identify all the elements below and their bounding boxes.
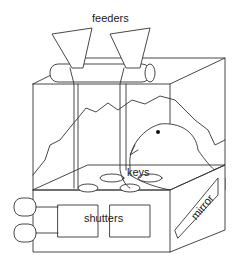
operant-chamber-diagram: feeders keys shutters mirror bbox=[0, 0, 239, 261]
solenoid-top bbox=[14, 198, 36, 216]
label-feeders: feeders bbox=[92, 12, 129, 24]
label-shutters: shutters bbox=[84, 212, 124, 224]
solenoid-bottom bbox=[14, 224, 36, 242]
feeder-outlet-1 bbox=[78, 184, 98, 192]
label-keys: keys bbox=[127, 166, 150, 178]
key-1 bbox=[100, 174, 124, 182]
pigeon-eye bbox=[156, 130, 160, 134]
